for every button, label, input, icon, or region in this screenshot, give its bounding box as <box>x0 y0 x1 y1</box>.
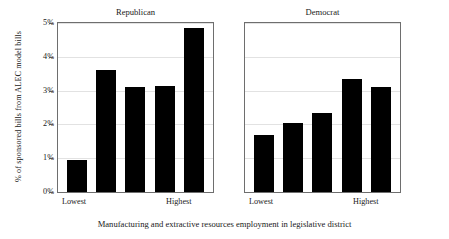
bar <box>254 135 274 192</box>
bar <box>67 160 87 192</box>
y-axis: 5%4%3%2%1%0% <box>22 0 54 239</box>
x-tick-republican-lowest: Lowest <box>62 197 86 207</box>
bar <box>125 87 145 192</box>
bar <box>96 70 116 192</box>
bar <box>342 79 362 192</box>
x-tick-democrat-lowest: Lowest <box>249 197 273 207</box>
bar-group-republican <box>58 23 213 192</box>
bar <box>184 28 204 192</box>
panel-title-republican: Republican <box>57 6 214 19</box>
bar <box>283 123 303 192</box>
x-tick-republican-highest: Highest <box>166 197 191 207</box>
chart-caption: Manufacturing and extractive resources e… <box>0 219 449 229</box>
panel-title-democrat: Democrat <box>244 6 401 19</box>
x-tick-democrat-highest: Highest <box>353 197 378 207</box>
y-tick-mark <box>49 23 53 24</box>
plot-area-democrat <box>245 23 400 192</box>
y-tick-mark <box>49 192 53 193</box>
bar <box>155 86 175 192</box>
bar <box>371 87 391 192</box>
chart-figure: % of sponsored bills from ALEC model bil… <box>0 0 449 239</box>
plot-area-republican <box>58 23 213 192</box>
panel-democrat <box>244 22 401 193</box>
y-tick-mark <box>49 124 53 125</box>
y-tick-mark <box>49 91 53 92</box>
panel-republican <box>57 22 214 193</box>
y-tick-mark <box>49 57 53 58</box>
bar <box>312 113 332 192</box>
y-tick-mark <box>49 158 53 159</box>
bar-group-democrat <box>245 23 400 192</box>
